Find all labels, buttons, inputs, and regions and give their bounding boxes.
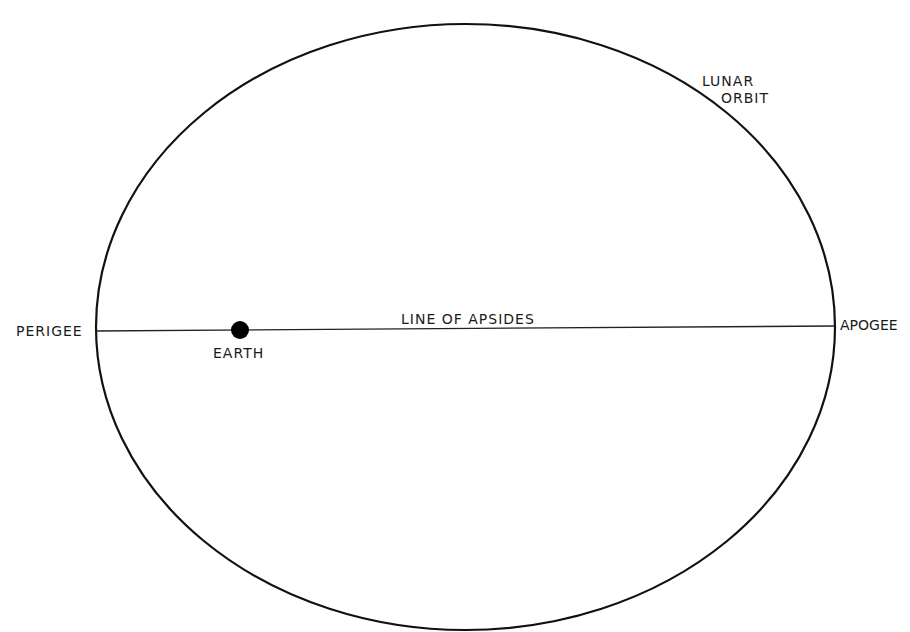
lunar-orbit-label-line1: LUNAR	[702, 74, 754, 88]
lunar-orbit-diagram: LUNAR ORBIT PERIGEE APOGEE LINE OF APSID…	[0, 0, 910, 632]
earth-label: EARTH	[213, 346, 264, 360]
apogee-label: APOGEE	[840, 318, 898, 332]
lunar-orbit-label-line2: ORBIT	[721, 91, 769, 105]
earth-dot	[231, 321, 249, 339]
perigee-label: PERIGEE	[16, 324, 83, 338]
line-of-apsides-label: LINE OF APSIDES	[401, 312, 535, 326]
